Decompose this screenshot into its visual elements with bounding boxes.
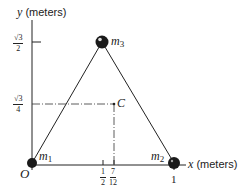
mass-m2-sub: 2 <box>160 154 165 164</box>
x-tick-0-num: 1 <box>100 168 106 178</box>
y-tick-label-sqrt3-over-4: √3 4 <box>13 95 23 114</box>
edge-m3-m2 <box>102 42 174 163</box>
mass-m3-ball <box>96 36 109 49</box>
y-tick-1-den: 4 <box>16 105 20 114</box>
edge-m1-m3 <box>32 42 102 163</box>
mass-m3-sub: 3 <box>120 39 125 49</box>
mass-m1-label: m1 <box>39 150 52 164</box>
x-tick-label-seven-twelfths: 7 12 <box>109 168 117 187</box>
center-of-mass-point <box>113 103 116 106</box>
mass-m1-name: m <box>39 149 48 163</box>
mass-m3-label: m3 <box>111 35 124 49</box>
mass-m1-sub: 1 <box>48 154 53 164</box>
x-tick-label-half: 1 2 <box>100 168 106 187</box>
y-axis-unit: (meters) <box>25 6 66 18</box>
x-axis-title: x (meters) <box>188 158 237 170</box>
mass-m3-highlight <box>98 38 102 42</box>
y-tick-0-num: √3 <box>13 34 23 44</box>
y-tick-0-den: 2 <box>16 44 20 53</box>
mass-m3-name: m <box>111 34 120 48</box>
mass-m2-label: m2 <box>151 150 164 164</box>
x-tick-0-den: 2 <box>101 178 105 187</box>
x-tick-1-den: 12 <box>109 178 117 187</box>
mass-m2-name: m <box>151 149 160 163</box>
y-tick-label-sqrt3-over-2: √3 2 <box>13 34 23 53</box>
y-tick-1-num: √3 <box>13 95 23 105</box>
x-tick-1-num: 7 <box>110 168 116 178</box>
mass-m2-highlight <box>171 160 173 162</box>
y-axis-title: y (meters) <box>17 6 66 18</box>
y-axis-var: y <box>17 5 22 19</box>
origin-label: O <box>20 167 29 180</box>
x-axis-unit: (meters) <box>196 158 237 170</box>
center-of-mass-label: C <box>117 97 125 109</box>
x-tick-label-one: 1 <box>171 174 177 185</box>
x-axis-var: x <box>188 157 193 171</box>
mass-m2-ball <box>168 157 180 169</box>
